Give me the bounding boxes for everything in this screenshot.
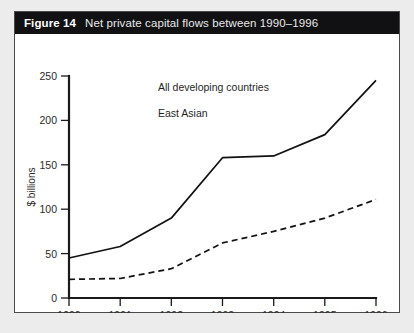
y-axis-ticks	[61, 76, 69, 298]
y-tick-label: 100	[39, 203, 57, 215]
series-annotation-east-asian: East Asian	[158, 107, 208, 119]
figure-title-bar: Figure 14 Net private capital flows betw…	[15, 12, 399, 34]
x-tick-label: 1996	[364, 309, 388, 313]
chart-plot-area: 250 200 150 100 50 0 $ billions	[15, 34, 399, 313]
series-annotation-all-developing-countries: All developing countries	[158, 81, 269, 93]
y-axis-tick-labels: 250 200 150 100 50 0	[39, 70, 57, 304]
figure-number: Figure 14	[24, 17, 76, 29]
y-tick-label: 150	[39, 159, 57, 171]
y-axis-title: $ billions	[26, 168, 37, 207]
x-axis-tick-labels: 1990 1991 1992 1993 1994 1995 1996	[57, 309, 388, 313]
x-tick-label: 1991	[109, 309, 133, 313]
figure-container: Figure 14 Net private capital flows betw…	[14, 11, 400, 313]
x-axis-ticks	[69, 298, 376, 306]
series-line-east-asian	[69, 199, 376, 279]
x-tick-label: 1993	[211, 309, 235, 313]
y-tick-label: 200	[39, 114, 57, 126]
y-tick-label: 50	[45, 248, 57, 260]
figure-caption: Net private capital flows between 1990–1…	[85, 17, 318, 29]
y-tick-label: 0	[51, 292, 57, 304]
x-tick-label: 1990	[57, 309, 81, 313]
x-tick-label: 1994	[262, 309, 286, 313]
x-tick-label: 1995	[313, 309, 337, 313]
x-tick-label: 1992	[160, 309, 184, 313]
y-tick-label: 250	[39, 70, 57, 82]
line-chart-svg: 250 200 150 100 50 0 $ billions	[15, 34, 399, 313]
